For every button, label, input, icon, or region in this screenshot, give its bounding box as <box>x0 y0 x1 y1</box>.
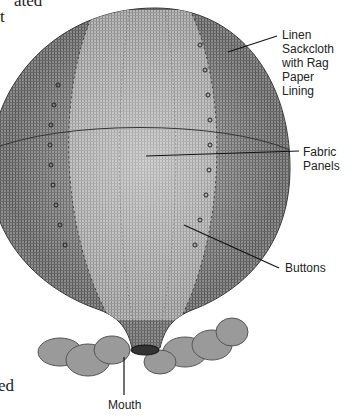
label-lining-line1: Linen Sackcloth <box>282 28 359 56</box>
balloon-mouth <box>131 345 159 355</box>
label-lining-line3: Lining <box>282 84 359 98</box>
balloon-envelope <box>0 0 310 360</box>
label-lining: Linen Sackcloth with Rag Paper Lining <box>282 28 359 98</box>
label-buttons: Buttons <box>285 261 326 275</box>
label-panels: Fabric Panels <box>303 145 340 173</box>
label-lining-line2: with Rag Paper <box>282 56 359 84</box>
label-panels-line1: Fabric <box>303 145 340 159</box>
label-panels-line2: Panels <box>303 159 340 173</box>
label-mouth: Mouth <box>108 398 141 412</box>
